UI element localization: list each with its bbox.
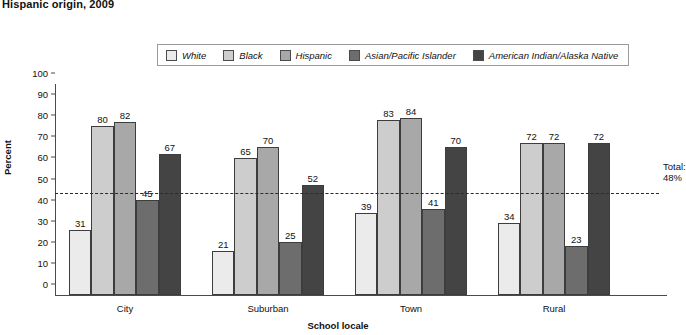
y-axis-tick-label: 10 bbox=[28, 257, 48, 268]
legend-item-label: Asian/Pacific Islander bbox=[365, 50, 456, 61]
y-axis-tick-mark bbox=[51, 115, 55, 116]
y-axis-tick: 80 bbox=[28, 110, 55, 121]
legend-item-label: American Indian/Alaska Native bbox=[489, 50, 618, 61]
y-axis-tick: 40 bbox=[28, 194, 55, 205]
bar-value-label: 70 bbox=[450, 135, 461, 146]
legend-swatch-icon bbox=[223, 50, 234, 61]
total-reference-line bbox=[55, 193, 659, 194]
bar-value-label: 70 bbox=[263, 135, 274, 146]
y-axis-tick: 10 bbox=[28, 257, 55, 268]
x-axis-category-label: Rural bbox=[543, 303, 566, 314]
bar-value-label: 72 bbox=[549, 131, 560, 142]
bar[interactable]: 72 bbox=[543, 143, 565, 295]
bar-group: 3180824567 bbox=[69, 84, 181, 295]
legend-item[interactable]: Asian/Pacific Islander bbox=[349, 50, 456, 61]
bar[interactable]: 45 bbox=[136, 200, 158, 295]
y-axis-tick-label: 60 bbox=[28, 152, 48, 163]
bar[interactable]: 70 bbox=[257, 147, 279, 295]
bar[interactable]: 70 bbox=[445, 147, 467, 295]
y-axis-tick: 20 bbox=[28, 236, 55, 247]
bar-value-label: 25 bbox=[285, 230, 296, 241]
y-axis-tick-label: 90 bbox=[28, 89, 48, 100]
legend-swatch-icon bbox=[280, 50, 291, 61]
bar[interactable]: 82 bbox=[114, 122, 136, 295]
legend-swatch-icon bbox=[166, 50, 177, 61]
total-label-line2: 48% bbox=[663, 172, 686, 183]
bar[interactable]: 67 bbox=[159, 154, 181, 295]
bar-value-label: 39 bbox=[361, 201, 372, 212]
x-axis-title: School locale bbox=[0, 320, 676, 331]
y-axis-tick-label: 20 bbox=[28, 236, 48, 247]
y-axis-tick-mark bbox=[51, 178, 55, 179]
y-axis-tick-mark bbox=[51, 199, 55, 200]
y-axis-tick: 60 bbox=[28, 152, 55, 163]
legend-item[interactable]: American Indian/Alaska Native bbox=[473, 50, 618, 61]
legend-item-label: White bbox=[182, 50, 206, 61]
bar-value-label: 65 bbox=[240, 146, 251, 157]
legend-item[interactable]: White bbox=[166, 50, 206, 61]
bar-value-label: 23 bbox=[571, 234, 582, 245]
bar[interactable]: 80 bbox=[91, 126, 113, 295]
plot-area: 0102030405060708090100318082456721657025… bbox=[55, 84, 640, 295]
y-axis-tick-label: 30 bbox=[28, 215, 48, 226]
bar[interactable]: 41 bbox=[422, 209, 444, 296]
x-axis-line bbox=[55, 295, 667, 296]
y-axis-tick-mark bbox=[51, 220, 55, 221]
bar-value-label: 67 bbox=[164, 142, 175, 153]
y-axis-tick: 100 bbox=[28, 68, 55, 79]
x-axis-category-label: Suburban bbox=[247, 303, 288, 314]
x-axis-category-label: City bbox=[117, 303, 133, 314]
y-axis-tick-mark bbox=[51, 94, 55, 95]
bar[interactable]: 83 bbox=[377, 120, 399, 295]
y-axis-tick: 90 bbox=[28, 89, 55, 100]
bar-group: 3472722372 bbox=[498, 84, 610, 295]
y-axis-tick-label: 0 bbox=[28, 279, 48, 290]
legend-item[interactable]: Hispanic bbox=[280, 50, 332, 61]
bar-value-label: 52 bbox=[307, 173, 318, 184]
bar[interactable]: 25 bbox=[279, 242, 301, 295]
bar[interactable]: 31 bbox=[69, 230, 91, 295]
bar-value-label: 84 bbox=[406, 106, 417, 117]
y-axis-tick-mark bbox=[51, 284, 55, 285]
legend-item[interactable]: Black bbox=[223, 50, 262, 61]
total-reference-label: Total:48% bbox=[663, 161, 686, 183]
bar[interactable]: 21 bbox=[212, 251, 234, 295]
y-axis-tick-mark bbox=[51, 262, 55, 263]
bar-value-label: 41 bbox=[428, 197, 439, 208]
legend-item-label: Hispanic bbox=[296, 50, 332, 61]
y-axis-tick-mark bbox=[51, 157, 55, 158]
x-axis-category-label: Town bbox=[400, 303, 422, 314]
bar-value-label: 21 bbox=[218, 239, 229, 250]
bar[interactable]: 72 bbox=[520, 143, 542, 295]
bar-value-label: 72 bbox=[593, 131, 604, 142]
bar-group: 3983844170 bbox=[355, 84, 467, 295]
chart-legend: WhiteBlackHispanicAsian/Pacific Islander… bbox=[157, 44, 629, 66]
y-axis-tick: 0 bbox=[28, 279, 55, 290]
bar-value-label: 31 bbox=[75, 218, 86, 229]
y-axis-title: Percent bbox=[2, 140, 13, 175]
bar[interactable]: 34 bbox=[498, 223, 520, 295]
bar[interactable]: 39 bbox=[355, 213, 377, 295]
bar[interactable]: 84 bbox=[400, 118, 422, 295]
bar[interactable]: 23 bbox=[565, 246, 587, 295]
bar[interactable]: 65 bbox=[234, 158, 256, 295]
bar-value-label: 80 bbox=[97, 114, 108, 125]
total-label-line1: Total: bbox=[663, 161, 686, 172]
y-axis-tick: 30 bbox=[28, 215, 55, 226]
bar[interactable]: 52 bbox=[302, 185, 324, 295]
bar-value-label: 83 bbox=[383, 108, 394, 119]
y-axis-tick-label: 40 bbox=[28, 194, 48, 205]
bar-group: 2165702552 bbox=[212, 84, 324, 295]
bar-value-label: 82 bbox=[120, 110, 131, 121]
y-axis-tick-mark bbox=[51, 73, 55, 74]
y-axis-tick-label: 80 bbox=[28, 110, 48, 121]
page-title: Hispanic origin, 2009 bbox=[2, 0, 114, 10]
legend-swatch-icon bbox=[473, 50, 484, 61]
y-axis-tick-mark bbox=[51, 136, 55, 137]
y-axis-tick: 50 bbox=[28, 173, 55, 184]
legend-item-label: Black bbox=[239, 50, 262, 61]
bar-value-label: 72 bbox=[526, 131, 537, 142]
bar[interactable]: 72 bbox=[588, 143, 610, 295]
legend-swatch-icon bbox=[349, 50, 360, 61]
y-axis-tick-label: 70 bbox=[28, 131, 48, 142]
